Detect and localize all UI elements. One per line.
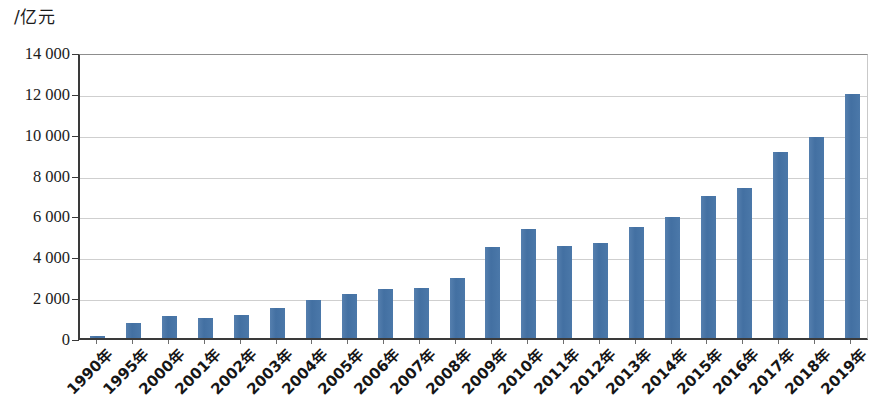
bar <box>665 217 680 338</box>
bar <box>306 300 321 338</box>
y-axis-tick <box>72 177 79 178</box>
x-axis-tick <box>742 340 743 344</box>
x-axis-tick <box>240 340 241 344</box>
y-axis-tick <box>72 95 79 96</box>
y-axis-tick-label: 0 <box>0 332 70 349</box>
bar-chart: /亿元 14 00012 00010 0008 0006 0004 0002 0… <box>0 0 873 406</box>
x-axis-tick <box>778 340 779 344</box>
y-axis-tick-label: 6 000 <box>0 209 70 226</box>
x-axis-tick <box>671 340 672 344</box>
bar <box>198 318 213 338</box>
y-axis-tick-label: 2 000 <box>0 291 70 308</box>
bar <box>485 247 500 338</box>
x-axis-tick <box>419 340 420 344</box>
x-axis-tick <box>850 340 851 344</box>
x-axis-tick <box>491 340 492 344</box>
bar <box>521 229 536 338</box>
x-axis-tick <box>455 340 456 344</box>
bar <box>90 336 105 338</box>
bar <box>557 246 572 338</box>
bar <box>629 227 644 338</box>
bar <box>450 278 465 338</box>
y-axis-tick <box>72 136 79 137</box>
x-axis-tick <box>96 340 97 344</box>
x-axis-tick <box>563 340 564 344</box>
bar <box>270 308 285 338</box>
bar <box>378 289 393 338</box>
bar <box>737 188 752 338</box>
y-axis-tick <box>72 54 79 55</box>
y-axis-tick-label: 4 000 <box>0 250 70 267</box>
x-axis-tick <box>383 340 384 344</box>
y-axis-tick <box>72 299 79 300</box>
x-axis-tick <box>599 340 600 344</box>
y-axis-unit-label: /亿元 <box>14 3 55 28</box>
x-axis-tick <box>347 340 348 344</box>
x-axis-tick <box>276 340 277 344</box>
bar <box>701 196 716 338</box>
x-axis-tick <box>204 340 205 344</box>
y-axis-tick <box>72 217 79 218</box>
bar <box>162 316 177 338</box>
bar <box>126 323 141 338</box>
bar <box>773 152 788 339</box>
y-axis-tick-label: 12 000 <box>0 87 70 104</box>
gridline <box>80 96 867 97</box>
x-axis-tick <box>635 340 636 344</box>
x-axis-tick <box>311 340 312 344</box>
plot-area <box>78 54 868 340</box>
bar <box>809 137 824 338</box>
y-axis-tick <box>72 258 79 259</box>
y-axis-tick-label: 8 000 <box>0 169 70 186</box>
gridline <box>80 137 867 138</box>
y-axis-tick <box>72 340 79 341</box>
x-axis-tick <box>706 340 707 344</box>
bar <box>234 315 249 338</box>
bar <box>342 294 357 338</box>
bar <box>845 94 860 338</box>
y-axis-tick-label: 14 000 <box>0 46 70 63</box>
x-axis-tick <box>168 340 169 344</box>
x-axis-tick <box>814 340 815 344</box>
bar <box>414 288 429 338</box>
y-axis-tick-label: 10 000 <box>0 128 70 145</box>
gridline <box>80 178 867 179</box>
x-axis-tick <box>527 340 528 344</box>
bar <box>593 243 608 338</box>
x-axis-tick <box>132 340 133 344</box>
